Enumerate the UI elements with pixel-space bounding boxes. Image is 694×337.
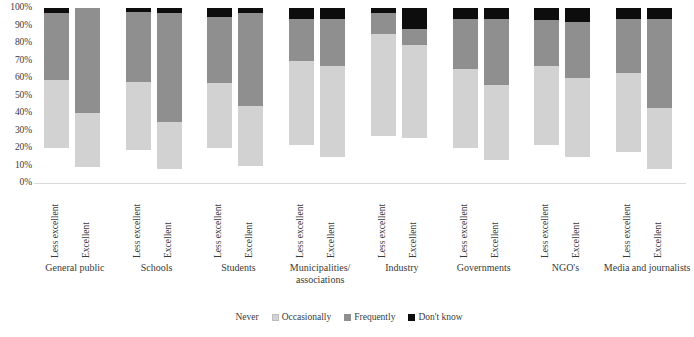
bar-segment-never (320, 157, 345, 183)
stacked-bar (453, 8, 478, 183)
bar-segment-never (402, 138, 427, 184)
bar-segment-never (647, 169, 672, 183)
bar-segment-frequently (402, 29, 427, 45)
bar-segment-never (238, 166, 263, 184)
stacked-bar (565, 8, 590, 183)
y-axis-tick-label: 30% (0, 126, 32, 136)
category-label: General public (28, 262, 122, 274)
bar-group (443, 8, 525, 183)
bar-segment-never (289, 145, 314, 184)
bar-segment-frequently (289, 19, 314, 61)
legend-label: Don't know (418, 312, 462, 322)
bar-axis-label: Excellent (408, 188, 422, 258)
bar-segment-frequently (534, 20, 559, 66)
bar-segment-dontknow (647, 8, 672, 19)
bar-segment-frequently (126, 12, 151, 82)
category-label: Students (192, 262, 286, 274)
stacked-bar (484, 8, 509, 183)
bar-segment-dontknow (484, 8, 509, 19)
bar-segment-occasionally (616, 73, 641, 152)
stacked-bar (616, 8, 641, 183)
bar-axis-label: Excellent (326, 188, 340, 258)
bar-segment-dontknow (207, 8, 232, 17)
bar-axis-label: Excellent (571, 188, 585, 258)
bar-segment-frequently (44, 13, 69, 80)
plot-area (34, 8, 688, 183)
legend-item[interactable]: Occasionally (272, 312, 332, 322)
bar-segment-frequently (238, 13, 263, 106)
bar-group (116, 8, 198, 183)
bar-segment-never (75, 167, 100, 183)
legend-item[interactable]: Never (225, 312, 258, 322)
bar-segment-frequently (157, 13, 182, 122)
bar-segment-never (157, 169, 182, 183)
legend-item[interactable]: Frequently (344, 312, 395, 322)
bar-axis-label: Excellent (244, 188, 258, 258)
bar-group (279, 8, 361, 183)
bar-segment-occasionally (647, 108, 672, 169)
bar-segment-dontknow (320, 8, 345, 19)
category-label: Governments (437, 262, 531, 274)
category-label: Media and journalists (600, 262, 694, 274)
category-label: Municipalities/ associations (273, 262, 367, 285)
bar-segment-dontknow (289, 8, 314, 19)
bar-segment-dontknow (402, 8, 427, 29)
bar-segment-never (534, 145, 559, 184)
legend-item[interactable]: Don't know (408, 312, 462, 322)
bar-segment-never (371, 136, 396, 183)
bar-axis-label: Less excellent (459, 188, 473, 258)
y-axis-tick-label: 70% (0, 56, 32, 66)
bar-axis-label: Less excellent (132, 188, 146, 258)
bar-segment-occasionally (207, 83, 232, 148)
bar-segment-frequently (371, 13, 396, 34)
bar-segment-frequently (647, 19, 672, 108)
stacked-bar (207, 8, 232, 183)
stacked-bar (44, 8, 69, 183)
bar-segment-occasionally (371, 34, 396, 136)
bar-axis-label: Less excellent (622, 188, 636, 258)
bar-segment-frequently (484, 19, 509, 86)
stacked-bar (402, 8, 427, 183)
bar-axis-label: Less excellent (50, 188, 64, 258)
bar-segment-dontknow (453, 8, 478, 19)
bar-axis-label: Less excellent (377, 188, 391, 258)
bar-segment-occasionally (157, 122, 182, 169)
x-axis-baseline (34, 183, 686, 184)
stacked-bar (320, 8, 345, 183)
legend-label: Frequently (354, 312, 395, 322)
category-label: Schools (110, 262, 204, 274)
bar-group (525, 8, 607, 183)
legend-swatch-never (225, 314, 232, 321)
bar-segment-frequently (207, 17, 232, 84)
legend-label: Occasionally (282, 312, 332, 322)
y-axis-tick-label: 90% (0, 21, 32, 31)
bar-axis-label: Less excellent (213, 188, 227, 258)
stacked-bar (238, 8, 263, 183)
y-axis-tick-label: 60% (0, 73, 32, 83)
bar-segment-occasionally (484, 85, 509, 160)
bar-segment-never (126, 150, 151, 183)
bar-segment-occasionally (238, 106, 263, 166)
bar-segment-dontknow (565, 8, 590, 22)
y-axis-tick-label: 100% (0, 3, 32, 13)
bar-group (606, 8, 688, 183)
bar-segment-dontknow (534, 8, 559, 20)
bar-axis-label: Less excellent (295, 188, 309, 258)
bar-group (34, 8, 116, 183)
bar-segment-occasionally (453, 69, 478, 148)
bar-axis-label: Excellent (653, 188, 667, 258)
bar-segment-occasionally (534, 66, 559, 145)
bar-segment-never (616, 152, 641, 184)
stacked-bar (289, 8, 314, 183)
bar-segment-occasionally (126, 82, 151, 150)
bar-segment-frequently (75, 8, 100, 113)
bar-segment-never (44, 148, 69, 183)
bar-segment-frequently (616, 19, 641, 73)
stacked-bar (647, 8, 672, 183)
bar-axis-label: Excellent (163, 188, 177, 258)
y-axis-tick-label: 40% (0, 108, 32, 118)
bar-segment-occasionally (320, 66, 345, 157)
bar-segment-occasionally (289, 61, 314, 145)
legend-swatch-dontknow (408, 314, 415, 321)
